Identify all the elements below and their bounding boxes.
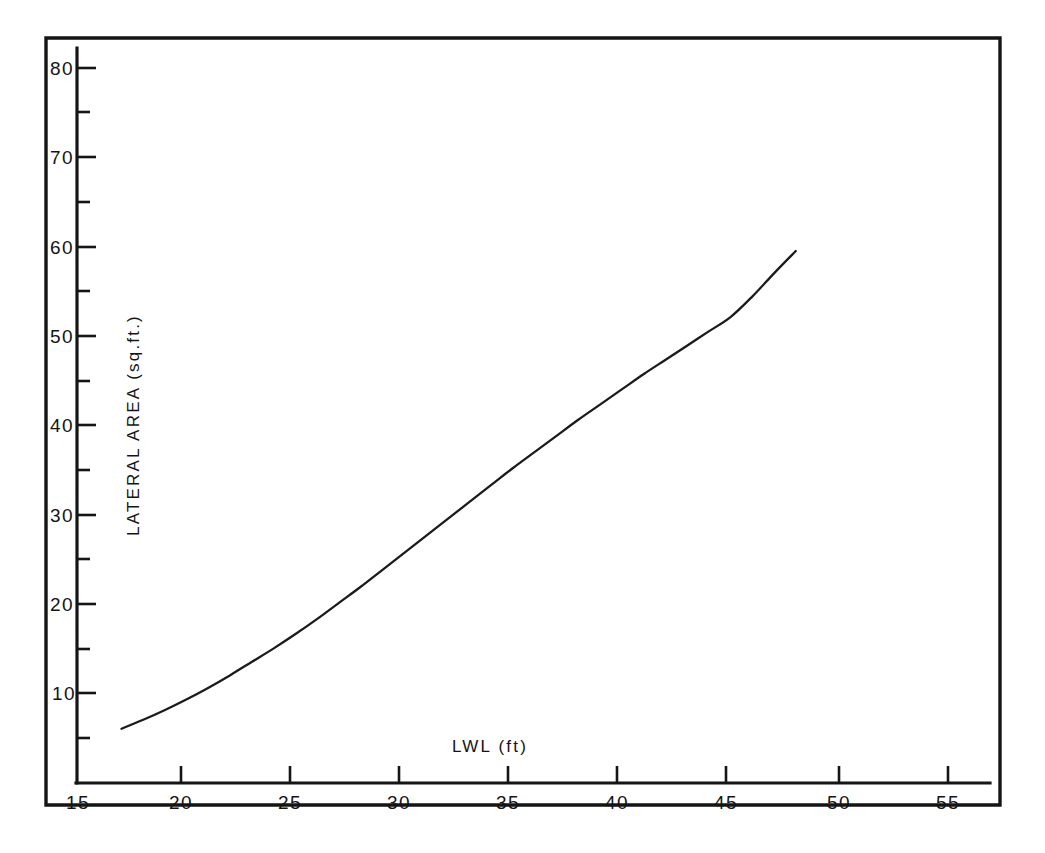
- y-tick-label: 60: [50, 237, 74, 258]
- y-axis-title: LATERAL AREA (sq.ft.): [124, 314, 143, 536]
- x-axis-tick-labels: 15 20 25 30 35 40 45 50 55: [66, 792, 960, 813]
- y-tick-label: 30: [50, 505, 74, 526]
- y-axis-tick-labels: 80 70 60 50 40 30 20 10: [50, 58, 76, 704]
- x-tick-label: 50: [827, 792, 851, 813]
- x-tick-label: 45: [714, 792, 738, 813]
- x-tick-label: 40: [605, 792, 629, 813]
- x-tick-label: 35: [496, 792, 520, 813]
- x-tick-label: 20: [169, 792, 193, 813]
- data-series-line: [122, 251, 796, 729]
- x-tick-label: 25: [278, 792, 302, 813]
- x-tick-label: 15: [66, 792, 90, 813]
- x-tick-label: 30: [387, 792, 411, 813]
- y-tick-label: 70: [50, 147, 74, 168]
- y-tick-label: 20: [50, 594, 74, 615]
- y-tick-label: 80: [50, 58, 74, 79]
- y-tick-label: 40: [50, 415, 74, 436]
- y-tick-label: 10: [52, 683, 76, 704]
- x-tick-label: 55: [936, 792, 960, 813]
- y-tick-label: 50: [50, 326, 74, 347]
- x-axis-title: LWL (ft): [452, 737, 528, 756]
- figure-border: [46, 38, 1000, 805]
- chart-figure: 80 70 60 50 40 30 20 10 LATERAL AREA (sq…: [0, 0, 1045, 853]
- x-axis-major-ticks: [181, 766, 948, 783]
- lateral-area-vs-lwl-chart: 80 70 60 50 40 30 20 10 LATERAL AREA (sq…: [0, 0, 1045, 853]
